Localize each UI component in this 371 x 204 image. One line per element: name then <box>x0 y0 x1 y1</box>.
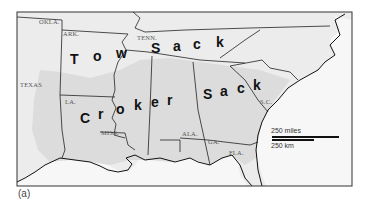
letter: o <box>116 101 125 117</box>
state-label-ga: GA. <box>208 138 220 145</box>
scale-miles-label: 250 miles <box>271 127 301 134</box>
letter: T <box>70 51 79 67</box>
letter: S <box>203 86 212 102</box>
state-label-ark: ARK. <box>63 30 79 37</box>
figure-caption: (a) <box>18 188 30 199</box>
map: OKLA. ARK. TENN. TEXAS LA. MISS. ALA. GA… <box>0 0 371 204</box>
letter: r <box>98 106 104 122</box>
state-label-texas: TEXAS <box>20 81 42 88</box>
letter: S <box>151 40 160 56</box>
scale-miles-bar <box>272 136 339 138</box>
state-label-sc: S.C. <box>260 98 272 105</box>
letter: o <box>93 48 102 64</box>
letter: c <box>193 36 201 52</box>
state-label-miss: MISS. <box>101 129 119 136</box>
state-label-la: LA. <box>65 98 76 105</box>
state-label-ala: ALA. <box>182 130 198 137</box>
letter: k <box>134 97 142 113</box>
letter: a <box>220 83 228 99</box>
letter: c <box>237 80 245 96</box>
letter: e <box>151 94 159 110</box>
state-label-fla: FLA. <box>229 149 244 156</box>
letter: k <box>253 77 261 93</box>
letter: C <box>80 110 90 126</box>
scale-km-bar <box>272 139 314 141</box>
letter: w <box>115 45 127 61</box>
letter: a <box>173 38 181 54</box>
state-label-okla: OKLA. <box>39 18 60 25</box>
scale-km-label: 250 km <box>271 142 294 149</box>
letter: k <box>216 34 224 50</box>
letter: r <box>167 92 173 108</box>
